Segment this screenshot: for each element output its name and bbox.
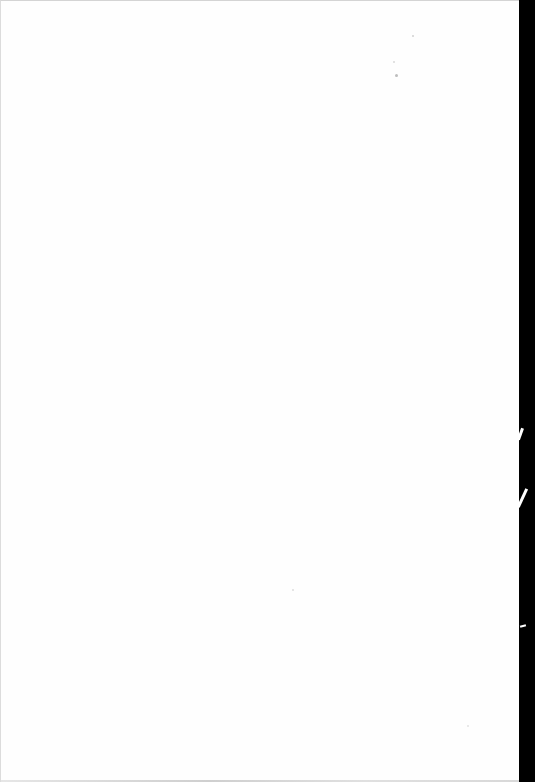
- dust-speck: [467, 725, 469, 727]
- dust-speck: [393, 61, 395, 63]
- blank-page: [0, 0, 519, 782]
- scanned-page: [0, 0, 535, 782]
- edge-nick: [517, 488, 528, 507]
- dust-speck: [395, 74, 398, 77]
- dust-speck: [292, 589, 294, 591]
- edge-nick: [517, 428, 524, 440]
- dust-speck: [412, 35, 414, 37]
- edge-nick: [520, 624, 526, 627]
- scanner-edge: [519, 0, 535, 782]
